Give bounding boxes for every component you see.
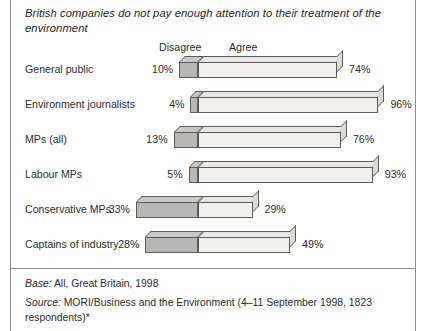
bar-value-label-agree: 49%: [302, 238, 323, 250]
bar-top-face-agree: [198, 126, 347, 132]
bar-side-face: [253, 190, 259, 212]
row-category-label: Labour MPs: [25, 168, 82, 180]
row-category-label: Captains of industry: [25, 238, 119, 250]
stacked-bar: [174, 132, 341, 148]
bar-top-face-disagree: [136, 196, 204, 202]
bar-segment-disagree: [136, 202, 198, 218]
bar-value-label-agree: 29%: [265, 203, 286, 215]
bar-top-face-disagree: [145, 231, 204, 237]
chart-title: British companies do not pay enough atte…: [25, 6, 403, 36]
bar-segment-disagree: [179, 62, 198, 78]
bar-value-label-agree: 74%: [349, 63, 370, 75]
bar-value-label-agree: 93%: [385, 168, 406, 180]
bar-segment-agree: [198, 237, 290, 253]
plot-area: General public10%74%Environment journali…: [0, 55, 427, 265]
row-category-label: Conservative MPs: [25, 203, 111, 215]
bar-side-face: [290, 225, 296, 247]
bar-value-label-disagree: 33%: [102, 203, 130, 215]
chart-row: General public10%74%: [0, 55, 427, 85]
bar-value-label-disagree: 4%: [156, 98, 184, 110]
row-category-label: MPs (all): [25, 133, 67, 145]
stacked-bar: [145, 237, 290, 253]
bar-segment-disagree: [174, 132, 198, 148]
bar-top-face-agree: [198, 56, 343, 62]
bar-value-label-disagree: 10%: [145, 63, 173, 75]
bar-side-face: [378, 85, 384, 107]
chart-row: MPs (all)13%76%: [0, 125, 427, 155]
bar-segment-disagree: [189, 167, 198, 183]
row-category-label: General public: [25, 63, 93, 75]
bar-value-label-agree: 96%: [390, 98, 411, 110]
footnote-base: Base: All, Great Britain, 1998: [25, 276, 405, 291]
bar-top-face-agree: [198, 196, 259, 202]
bar-top-face-agree: [198, 161, 379, 167]
footnote-base-text: All, Great Britain, 1998: [52, 278, 159, 289]
bar-top-face-agree: [198, 231, 296, 237]
bar-value-label-agree: 76%: [353, 133, 374, 145]
chart-row: Environment journalists4%96%: [0, 90, 427, 120]
bar-segment-disagree: [145, 237, 198, 253]
chart-figure: British companies do not pay enough atte…: [0, 0, 427, 331]
bar-value-label-disagree: 5%: [155, 168, 183, 180]
footnote-divider-rule: [10, 268, 416, 269]
bar-side-face: [373, 155, 379, 177]
legend-label-disagree: Disagree: [159, 41, 201, 53]
bar-side-face: [337, 50, 343, 72]
chart-row: Labour MPs5%93%: [0, 160, 427, 190]
bar-segment-agree: [198, 167, 373, 183]
stacked-bar: [189, 167, 373, 183]
footnote-source: Source: MORI/Business and the Environmen…: [25, 295, 405, 325]
footnote-base-lead: Base:: [25, 278, 52, 289]
footnote-source-lead: Source:: [25, 297, 61, 308]
bar-segment-agree: [198, 132, 341, 148]
bar-value-label-disagree: 28%: [111, 238, 139, 250]
row-category-label: Environment journalists: [25, 98, 135, 110]
bar-segment-agree: [198, 202, 253, 218]
footnotes: Base: All, Great Britain, 1998 Source: M…: [25, 276, 405, 329]
stacked-bar: [179, 62, 337, 78]
bar-segment-agree: [198, 97, 378, 113]
chart-row: Conservative MPs33%29%: [0, 195, 427, 225]
bar-segment-disagree: [190, 97, 198, 113]
legend-label-agree: Agree: [229, 41, 257, 53]
bar-side-face: [341, 120, 347, 142]
bar-top-face-agree: [198, 91, 384, 97]
chart-row: Captains of industry28%49%: [0, 230, 427, 260]
footnote-source-text: MORI/Business and the Environment (4–11 …: [25, 297, 372, 323]
bar-value-label-disagree: 13%: [140, 133, 168, 145]
stacked-bar: [136, 202, 253, 218]
bar-segment-agree: [198, 62, 337, 78]
stacked-bar: [190, 97, 378, 113]
